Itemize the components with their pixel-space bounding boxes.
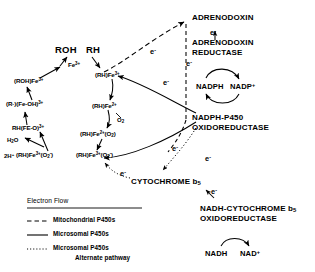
cofactor-nadh: NADH — [205, 250, 227, 258]
species-rh-fe3: (RH)Fe3+ — [95, 72, 120, 78]
reactant-protons: 2H+ — [4, 153, 14, 159]
arrow-o2complex-to-peroxo — [97, 139, 102, 150]
path-mito-to-adrenodoxin — [104, 22, 184, 72]
arrow-fe3-to-fe2 — [110, 79, 113, 100]
electron-label-b5-to-p450: e- — [120, 170, 126, 177]
path-micro-to-fe3 — [118, 76, 196, 113]
electron-label-mito-upper: e- — [150, 48, 156, 55]
arrow-roh-release — [60, 57, 67, 66]
electron-label-adx-reductase: e- — [186, 60, 192, 67]
arrow-rfeoh-to-rohfe — [27, 87, 32, 100]
legend-entry-microsomal: Microsomal P450s — [53, 231, 109, 237]
protein-adrenodoxin: ADRENODOXIN — [192, 14, 254, 22]
arc-nadph-top — [206, 69, 239, 79]
arrow-peroxo-to-feo — [40, 132, 48, 151]
reactant-water: H2O — [7, 137, 18, 143]
arrow-rh-binding — [92, 57, 100, 68]
protein-nadh-cytochrome-b5-oxidoreductase-line2: OXIDOREDUCTASE — [200, 215, 277, 223]
protein-nadh-cytochrome-b5-oxidoreductase-line1: NADH-CYTOCHROME b5 — [200, 205, 297, 213]
species-rh-fe3-superoxo: (RH)Fe3+(O2-) — [76, 152, 113, 159]
reactant-dioxygen: O2 — [117, 117, 124, 123]
electron-label-micro-lower: e- — [172, 145, 178, 152]
arrow-water-release — [25, 138, 44, 147]
protein-nadph-p450-oxidoreductase-line2: OXIDOREDUCTASE — [192, 124, 269, 132]
species-peroxo-left: (RH)Fe3+(O2-) — [16, 152, 53, 159]
species-r-radical-fe-oh: (R·)(Fe-OH)3+ — [6, 101, 43, 107]
species-fe3: Fe3+ — [68, 62, 80, 68]
legend-entry-microsomal-alternate: Microsomal P450s — [53, 245, 109, 251]
protein-adrenodoxin-reductase-line2: REDUCTASE — [192, 49, 243, 57]
legend-entry-microsomal-alternate-sub: Alternate pathway — [75, 255, 130, 261]
path-micro-to-peroxo — [104, 122, 196, 158]
arc-nadph-bottom — [206, 94, 239, 103]
species-rh-fe2: (RH)Fe2+ — [92, 103, 117, 109]
cofactor-nadp-plus: NADP+ — [230, 83, 255, 91]
legend-entry-mitochondrial: Mitochondrial P450s — [53, 217, 115, 223]
protein-nadph-p450-oxidoreductase-line1: NADPH-P450 — [192, 114, 243, 122]
label-substrate-rh: RH — [86, 45, 100, 55]
diagram-vector-layer — [0, 0, 315, 272]
electron-label-adrenodoxin: e- — [210, 29, 216, 36]
species-rh-fe2-o2: (RH)Fe2+(O2) — [80, 131, 116, 138]
cofactor-nadph: NADPH — [196, 83, 224, 91]
legend-title: Electron Flow — [27, 198, 68, 205]
electron-label-nadh-to-b5: e- — [211, 188, 217, 195]
species-roh-fe3: (ROH)Fe3+ — [14, 78, 43, 84]
protein-adrenodoxin-reductase-line1: ADRENODOXIN — [192, 39, 254, 47]
protein-cytochrome-b5: CYTOCHROME b5 — [131, 178, 201, 186]
arrow-fe2-to-o2complex — [107, 110, 109, 128]
label-product-roh: ROH — [55, 45, 77, 55]
arc-nadh — [221, 239, 249, 247]
arrow-rohfe-to-fe — [40, 67, 60, 78]
species-rh-fe-o: RH(FE-O)3+ — [12, 125, 44, 131]
electron-label-b5-branch: e- — [205, 155, 211, 162]
path-b5-to-peroxo — [105, 163, 130, 178]
cofactor-nad-plus: NAD+ — [240, 250, 260, 258]
p450-cycle-diagram: ROH RH Fe3+ (RH)Fe3+ (RH)Fe2+ (RH)Fe2+(O… — [0, 0, 315, 272]
electron-label-micro-upper: e- — [163, 79, 169, 86]
